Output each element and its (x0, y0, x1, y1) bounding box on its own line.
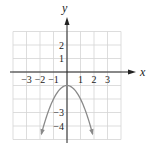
x-tick-label: −2 (35, 74, 46, 85)
y-axis-label: y (61, 1, 68, 15)
curve-arrow-icon (89, 129, 93, 135)
y-tick-label: 2 (59, 40, 64, 51)
parabola-graph: −3−2−112321−3−4 y x (0, 0, 153, 152)
chart-canvas: −3−2−112321−3−4 y x (0, 0, 153, 152)
x-tick-label: 1 (78, 74, 83, 85)
y-tick-label: −4 (53, 121, 64, 132)
y-axis-arrow-icon (65, 17, 70, 25)
x-axis-arrow-icon (128, 70, 136, 75)
x-tick-label: −1 (48, 74, 59, 85)
y-tick-label: 1 (59, 53, 64, 64)
x-tick-label: 2 (92, 74, 97, 85)
y-tick-label: −3 (53, 107, 64, 118)
x-axis-label: x (139, 65, 146, 79)
x-tick-label: −3 (21, 74, 32, 85)
curve-arrow-icon (40, 129, 44, 135)
x-tick-label: 3 (105, 74, 110, 85)
